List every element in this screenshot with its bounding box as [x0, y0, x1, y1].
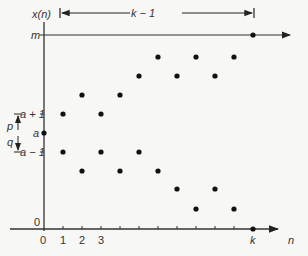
a-plus-1-label: a + 1 — [20, 108, 45, 120]
data-point — [79, 92, 84, 97]
data-point — [98, 111, 103, 116]
a-label: a — [33, 127, 39, 139]
data-point — [41, 130, 46, 135]
x-axis-label: n — [288, 234, 294, 246]
data-point — [231, 54, 236, 59]
data-point — [155, 168, 160, 173]
data-point — [193, 206, 198, 211]
data-point — [193, 54, 198, 59]
data-point — [174, 73, 179, 78]
data-point — [212, 186, 217, 191]
span-label: k − 1 — [131, 7, 155, 19]
m-label: m — [31, 29, 40, 41]
data-point — [136, 73, 141, 78]
y-axis-label: x(n) — [31, 8, 51, 20]
data-point — [155, 54, 160, 59]
diagram-canvas: x(n) k − 1 m a + 1 a a − 1 p q 0 0 1 2 3… — [0, 0, 308, 256]
data-point — [60, 111, 65, 116]
span-arrow — [60, 8, 254, 18]
q-label: q — [7, 136, 14, 148]
data-point — [98, 149, 103, 154]
x-tick-2: 2 — [79, 234, 85, 246]
data-point — [136, 149, 141, 154]
data-points — [41, 32, 255, 231]
data-point — [117, 168, 122, 173]
x-tick-3: 3 — [98, 234, 104, 246]
data-point — [212, 73, 217, 78]
zero-y-label: 0 — [34, 216, 40, 228]
x-tick-1: 1 — [60, 234, 66, 246]
data-point — [60, 149, 65, 154]
a-minus-1-label: a − 1 — [20, 146, 45, 158]
x-tick-0: 0 — [40, 234, 46, 246]
data-point — [174, 186, 179, 191]
data-point — [231, 206, 236, 211]
data-point — [79, 168, 84, 173]
data-point — [250, 32, 255, 37]
p-label: p — [6, 120, 13, 132]
data-point — [250, 226, 255, 231]
k-label: k — [250, 234, 256, 246]
data-point — [117, 92, 122, 97]
